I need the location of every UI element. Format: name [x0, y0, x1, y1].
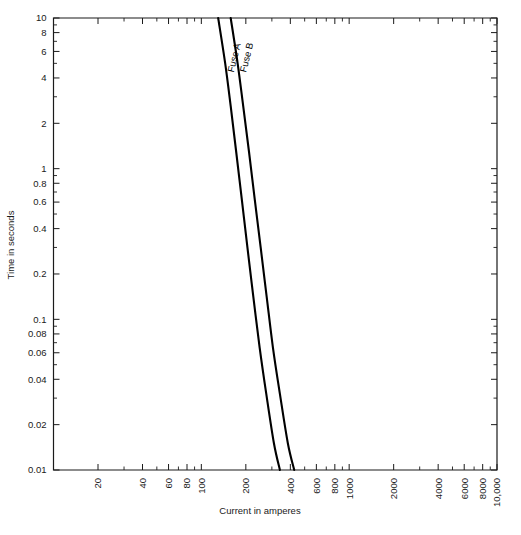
y-tick-label: 0.6: [33, 196, 46, 207]
y-tick-label: 0.08: [28, 328, 47, 339]
x-axis-title: Current in amperes: [219, 505, 301, 516]
y-tick-label: 4: [41, 72, 46, 83]
y-tick-label: 0.4: [33, 223, 46, 234]
chart-canvas: 2040608010020040060080010002000400060008…: [0, 0, 521, 535]
y-tick-label: 8: [41, 27, 46, 38]
y-tick-label: 0.04: [28, 374, 47, 385]
y-tick-label: 0.2: [33, 268, 46, 279]
fuse-time-current-chart: 2040608010020040060080010002000400060008…: [0, 0, 521, 535]
x-tick-label: 4000: [433, 478, 444, 499]
y-tick-label: 0.8: [33, 178, 46, 189]
y-tick-label: 0.02: [28, 419, 47, 430]
x-tick-label: 80: [181, 478, 192, 489]
x-tick-label: 10,000: [491, 478, 502, 507]
x-tick-label: 20: [92, 478, 103, 489]
y-tick-label: 6: [41, 46, 46, 57]
y-tick-label: 0.01: [28, 464, 47, 475]
y-tick-label: 0.06: [28, 347, 47, 358]
x-tick-label: 6000: [459, 478, 470, 499]
x-tick-label: 400: [285, 478, 296, 494]
x-tick-label: 200: [240, 478, 251, 494]
x-tick-label: 800: [329, 478, 340, 494]
y-axis-title: Time in seconds: [5, 210, 16, 279]
y-tick-label: 2: [41, 118, 46, 129]
y-tick-label: 10: [36, 12, 47, 23]
x-tick-label: 40: [137, 478, 148, 489]
y-tick-label: 1: [41, 163, 46, 174]
x-tick-label: 60: [163, 478, 174, 489]
y-tick-label: 0.1: [33, 314, 46, 325]
x-tick-label: 600: [311, 478, 322, 494]
x-tick-label: 100: [196, 478, 207, 494]
x-tick-label: 2000: [388, 478, 399, 499]
x-tick-label: 1000: [344, 478, 355, 499]
chart-background: [0, 0, 521, 535]
x-tick-label: 8000: [477, 478, 488, 499]
